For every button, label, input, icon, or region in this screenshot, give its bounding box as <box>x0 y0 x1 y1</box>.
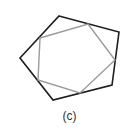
inscribed-pentagon <box>38 24 115 93</box>
figure-caption: (c) <box>0 109 139 123</box>
outer-pentagon <box>20 16 119 100</box>
